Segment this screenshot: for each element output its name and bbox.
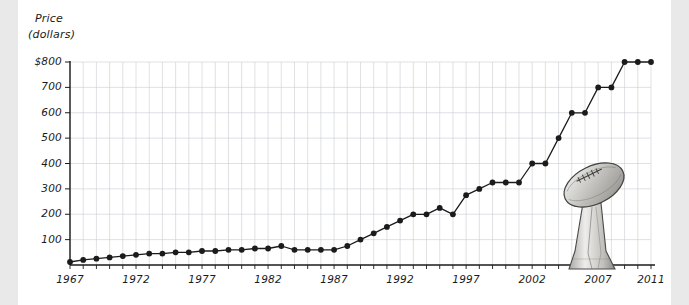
y-axis-tick-label: 200 [18, 207, 62, 219]
plot-area [18, 0, 671, 305]
y-axis-tick-label: 100 [18, 233, 62, 245]
y-axis-label-line1: Price [35, 12, 63, 25]
y-axis-tick-label: 700 [18, 80, 62, 92]
y-axis-ticks [65, 62, 70, 240]
figure-page: Price (dollars) [18, 0, 671, 305]
x-axis-tick-label: 1987 [314, 273, 354, 285]
x-axis-tick-label: 1972 [116, 273, 156, 285]
x-axis-tick-label: 2011 [631, 273, 671, 285]
x-axis-tick-label: 1992 [380, 273, 420, 285]
y-axis-label-line2: (dollars) [28, 28, 75, 41]
y-axis-tick-label: 300 [18, 182, 62, 194]
line-chart: Price (dollars) [18, 0, 671, 305]
y-axis-tick-label: 500 [18, 131, 62, 143]
y-axis-tick-label: 400 [18, 157, 62, 169]
y-axis-tick-label: 600 [18, 106, 62, 118]
x-axis-tick-label: 2002 [512, 273, 552, 285]
x-axis-tick-label: 1997 [446, 273, 486, 285]
x-axis-tick-label: 1967 [50, 273, 90, 285]
x-axis-tick-label: 2007 [578, 273, 618, 285]
y-axis-tick-label: $800 [18, 55, 62, 67]
axis-lines [70, 61, 655, 265]
x-axis-tick-label: 1977 [182, 273, 222, 285]
x-axis-tick-label: 1982 [248, 273, 288, 285]
